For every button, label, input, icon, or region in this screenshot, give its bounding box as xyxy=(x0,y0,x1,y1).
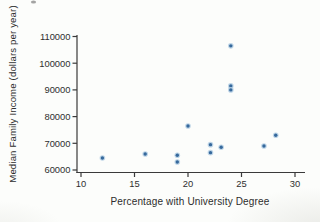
scan-artifact xyxy=(31,0,36,3)
data-point xyxy=(176,154,179,157)
x-tick-label: 30 xyxy=(290,178,300,189)
y-tick-label: 70000 xyxy=(44,138,70,149)
x-axis-title: Percentage with University Degree xyxy=(111,196,270,207)
x-tick-label: 15 xyxy=(129,178,139,189)
y-tick-label: 90000 xyxy=(44,84,70,95)
data-point xyxy=(229,84,232,87)
data-point xyxy=(229,88,232,91)
data-point xyxy=(176,160,179,163)
data-points xyxy=(100,43,279,165)
data-point xyxy=(219,146,222,149)
data-point xyxy=(209,143,212,146)
y-tick-label: 110000 xyxy=(40,31,71,42)
x-tick-label: 20 xyxy=(183,178,193,189)
data-point xyxy=(209,151,212,154)
data-point xyxy=(144,152,147,155)
y-tick-label: 60000 xyxy=(44,164,70,175)
plot-area: Median Family Income (dollars per year) … xyxy=(0,0,320,222)
data-point xyxy=(262,144,265,147)
data-point xyxy=(101,156,104,159)
scatterplot-figure: Median Family Income (dollars per year) … xyxy=(0,0,320,222)
x-tick-label: 10 xyxy=(76,178,86,189)
y-tick-label: 100000 xyxy=(39,58,70,69)
data-point xyxy=(274,134,277,137)
data-point xyxy=(229,44,232,47)
y-axis-title: Median Family Income (dollars per year) xyxy=(7,5,18,183)
y-tick-label: 80000 xyxy=(44,111,70,122)
x-tick-label: 25 xyxy=(236,178,246,189)
data-point xyxy=(186,124,189,127)
axes: 6000070000800009000010000011000010152025… xyxy=(39,31,305,189)
